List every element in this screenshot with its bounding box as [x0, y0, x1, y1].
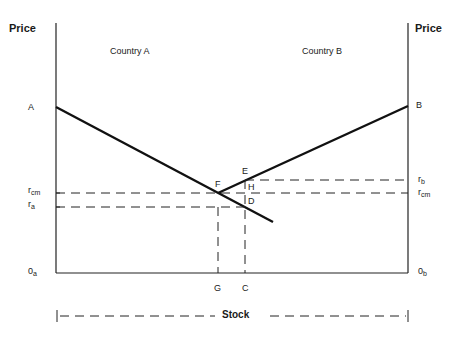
point-d-label: D — [248, 197, 255, 206]
point-e-label: E — [242, 167, 248, 176]
point-g-label: G — [214, 284, 221, 293]
point-b-label: B — [416, 101, 422, 110]
point-f-label: F — [215, 180, 221, 189]
country-a-curve — [56, 107, 273, 222]
country-a-label: Country A — [110, 47, 150, 56]
left-axis-label: Price — [9, 23, 36, 34]
stock-label: Stock — [222, 310, 249, 320]
left-r-cm-label: rcm — [28, 186, 40, 196]
left-origin-label: 0a — [28, 267, 37, 277]
point-c-label: C — [242, 284, 249, 293]
diagram-canvas — [0, 0, 461, 337]
right-r-b-label: rb — [418, 175, 425, 185]
point-h-label: H — [248, 183, 255, 192]
right-axis-label: Price — [415, 23, 442, 34]
left-r-a-label: ra — [28, 200, 35, 210]
country-b-label: Country B — [302, 47, 342, 56]
right-origin-label: 0b — [418, 267, 427, 277]
right-r-cm-label: rcm — [418, 188, 430, 198]
point-a-label: A — [28, 103, 34, 112]
